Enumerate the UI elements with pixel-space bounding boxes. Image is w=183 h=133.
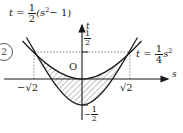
tick-neg-half-sign: − — [84, 110, 91, 119]
equation-right-denominator: 4 — [155, 54, 163, 65]
tick-half-fraction: 1 2 — [84, 30, 91, 47]
equation-upper-variable: t — [9, 7, 13, 18]
equation-label-right: t = 1 4 s2 — [136, 44, 172, 65]
equation-right-exponent: 2 — [168, 47, 172, 55]
s-axis-arrow — [161, 76, 168, 82]
equation-upper-equals: = — [16, 7, 24, 18]
tick-label-s-neg-sqrt2: −√2 — [17, 83, 38, 93]
equation-upper-fraction: 1 2 — [28, 3, 36, 24]
tick-neg-half-fraction: 1 2 — [91, 106, 98, 123]
s-axis-label: s — [172, 70, 177, 79]
equation-upper-body: (s — [36, 7, 45, 18]
equation-upper-tail: − 1) — [49, 7, 71, 18]
tick-label-t-neg-half: − 1 2 — [84, 106, 98, 123]
tick-neg-half-numerator: 1 — [91, 106, 98, 114]
equation-right-variable: t — [136, 48, 140, 59]
tick-label-t-half: 1 2 — [84, 30, 91, 47]
equation-upper-denominator: 2 — [28, 13, 36, 24]
tick-half-denominator: 2 — [84, 38, 91, 47]
circled-step-marker-label: 2 — [1, 47, 7, 57]
equation-right-numerator: 1 — [155, 44, 163, 54]
tick-half-numerator: 1 — [84, 30, 91, 38]
equation-upper-numerator: 1 — [28, 3, 36, 13]
equation-right-fraction: 1 4 — [155, 44, 163, 65]
equation-right-equals: = — [143, 48, 151, 59]
tick-neg-half-denominator: 2 — [91, 114, 98, 123]
equation-label-upper: t = 1 2 (s2− 1) — [9, 3, 71, 24]
tick-label-s-sqrt2: √2 — [120, 83, 133, 93]
origin-label: O — [69, 62, 77, 72]
